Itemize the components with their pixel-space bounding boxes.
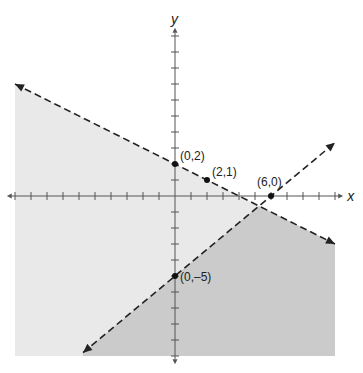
point-marker xyxy=(268,193,274,199)
point-label: (2,1) xyxy=(212,165,237,179)
point-label: (0,–5) xyxy=(180,270,211,284)
point-marker xyxy=(172,273,178,279)
point-marker xyxy=(172,161,178,167)
point-marker xyxy=(204,177,210,183)
point-label: (0,2) xyxy=(180,149,205,163)
x-axis-arrow-icon xyxy=(7,194,12,199)
y-axis-label: y xyxy=(170,11,179,27)
y-axis-arrow-icon xyxy=(173,28,178,33)
x-axis-arrow-icon xyxy=(338,194,343,199)
inequality-graph: (0,2)(2,1)(6,0)(0,–5) x y xyxy=(0,0,363,373)
point-label: (6,0) xyxy=(257,175,282,189)
x-axis-label: x xyxy=(346,188,355,204)
y-axis-arrow-icon xyxy=(173,359,178,364)
arrowhead-icon xyxy=(326,143,335,152)
